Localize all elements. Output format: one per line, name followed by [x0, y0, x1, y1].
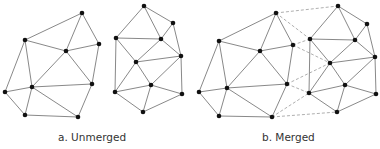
mesh-node: [3, 90, 8, 95]
mesh-node: [149, 83, 154, 88]
mesh-edge: [136, 62, 151, 85]
mesh-edge: [310, 39, 330, 63]
mesh-edge: [115, 38, 116, 92]
mesh-edge: [260, 45, 293, 51]
mesh-edge: [367, 24, 375, 57]
mesh-node: [373, 55, 378, 60]
mesh-edge: [330, 63, 345, 85]
mesh-edge: [66, 51, 92, 84]
merge-edge: [276, 13, 310, 39]
mesh-node: [97, 42, 102, 47]
merged-panel: [197, 4, 379, 120]
mesh-edge: [161, 39, 181, 56]
mesh-edge: [330, 57, 375, 63]
mesh-edge: [181, 56, 182, 94]
mesh-edge: [115, 62, 136, 92]
mesh-edge: [136, 39, 161, 62]
mesh-edge: [227, 88, 272, 117]
mesh-edge: [375, 57, 376, 94]
mesh-edge: [199, 88, 227, 92]
mesh-edge: [66, 44, 99, 51]
mesh-edge: [219, 13, 276, 41]
mesh-node: [179, 54, 184, 59]
mesh-node: [76, 115, 81, 120]
mesh-node: [270, 115, 275, 120]
merge-edge: [293, 39, 310, 45]
mesh-node: [23, 113, 28, 118]
mesh-edge: [143, 85, 151, 112]
mesh-edge: [345, 57, 375, 85]
mesh-edge: [92, 44, 99, 84]
mesh-node: [197, 90, 202, 95]
mesh-edge: [25, 40, 32, 87]
mesh-edge: [309, 93, 337, 112]
mesh-node: [343, 83, 348, 88]
mesh-node: [142, 4, 147, 9]
mesh-node: [328, 61, 333, 66]
mesh-edge: [32, 87, 78, 117]
mesh-edge: [287, 45, 293, 84]
mesh-node: [307, 91, 312, 96]
mesh-node: [374, 92, 379, 97]
mesh-node: [30, 85, 35, 90]
mesh-edge: [309, 39, 310, 93]
mesh-edge: [310, 6, 338, 39]
mesh-node: [159, 37, 164, 42]
mesh-node: [141, 110, 146, 115]
mesh-node: [291, 43, 296, 48]
caption-merged: b. Merged: [262, 131, 315, 143]
mesh-edge: [227, 51, 260, 88]
mesh-node: [308, 37, 313, 42]
mesh-node: [285, 82, 290, 87]
mesh-node: [134, 60, 139, 65]
mesh-edge: [25, 87, 32, 115]
mesh-edge: [276, 13, 293, 45]
mesh-edge: [151, 56, 181, 85]
mesh-edge: [136, 56, 181, 62]
unmerged-panel: [3, 4, 185, 120]
mesh-edge: [143, 94, 182, 112]
mesh-edge: [5, 87, 32, 92]
mesh-edge: [25, 40, 66, 51]
mesh-node: [225, 86, 230, 91]
mesh-edge: [227, 84, 287, 88]
mesh-edge: [219, 88, 227, 116]
mesh-edge: [5, 40, 25, 92]
mesh-edge: [78, 84, 92, 117]
mesh-node: [274, 11, 279, 16]
mesh-node: [80, 11, 85, 16]
mesh-edge: [219, 41, 227, 88]
merge-edge: [272, 112, 337, 117]
mesh-node: [365, 22, 370, 27]
mesh-edge: [115, 92, 143, 112]
mesh-edge: [82, 13, 99, 44]
mesh-node: [336, 4, 341, 9]
mesh-edge: [337, 85, 345, 112]
mesh-edge: [115, 85, 151, 92]
mesh-edge: [199, 41, 219, 92]
mesh-edge: [309, 85, 345, 93]
mesh-edge: [5, 92, 25, 115]
mesh-edge: [309, 63, 330, 93]
mesh-node: [114, 36, 119, 41]
mesh-edge: [355, 24, 367, 40]
mesh-node: [23, 38, 28, 43]
mesh-node: [90, 82, 95, 87]
mesh-edge: [32, 84, 92, 87]
mesh-edge: [161, 23, 173, 39]
mesh-edge: [199, 92, 219, 116]
mesh-node: [113, 90, 118, 95]
mesh-edge: [355, 40, 375, 57]
mesh-node: [64, 49, 69, 54]
mesh-node: [335, 110, 340, 115]
mesh-node: [258, 49, 263, 54]
mesh-edge: [116, 38, 136, 62]
mesh-edge: [337, 94, 376, 112]
merge-edge: [293, 45, 330, 63]
mesh-edge: [66, 13, 82, 51]
mesh-node: [171, 21, 176, 26]
mesh-edge: [219, 41, 260, 51]
mesh-edge: [173, 23, 181, 56]
mesh-edge: [219, 116, 272, 117]
mesh-edge: [260, 13, 276, 51]
